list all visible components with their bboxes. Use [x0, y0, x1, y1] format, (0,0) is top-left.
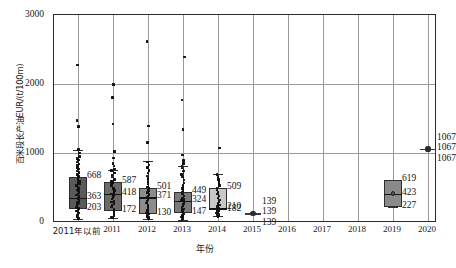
- scatter-point: [78, 155, 80, 157]
- x-tick-2013: 2013: [173, 224, 191, 234]
- gridline-x-2016: [288, 15, 289, 221]
- scatter-point: [77, 125, 79, 127]
- single-point-marker: [250, 211, 255, 216]
- stat-label: 147: [192, 207, 206, 217]
- y-axis-tick-labels: 3000 2000 1000 0: [0, 0, 52, 222]
- y-tick-3000: 3000: [0, 9, 44, 19]
- scatter-point: [113, 150, 115, 152]
- stat-label: 1067: [437, 133, 456, 143]
- scatter-point: [113, 165, 115, 167]
- scatter-point: [76, 64, 78, 66]
- stat-label: 371: [157, 191, 171, 201]
- x-tick-pre2011: 2011年以前: [53, 224, 102, 236]
- x-tick-2012: 2012: [138, 224, 156, 234]
- scatter-point: [78, 152, 80, 154]
- scatter-point: [112, 157, 114, 159]
- stat-label: 139: [262, 218, 276, 228]
- x-tick-2014: 2014: [208, 224, 226, 234]
- scatter-point: [113, 168, 115, 170]
- scatter-point: [217, 215, 219, 217]
- gridline-x-2017: [323, 15, 324, 221]
- stat-label: 182: [227, 204, 241, 214]
- scatter-point: [182, 128, 184, 130]
- whisker-cap-lower: [178, 220, 188, 221]
- scatter-point: [182, 170, 184, 172]
- scatter-point: [113, 202, 115, 204]
- scatter-point: [77, 148, 79, 150]
- stat-label: 172: [122, 205, 136, 215]
- scatter-point: [218, 184, 220, 186]
- scatter-point: [147, 172, 149, 174]
- x-tick-2016: 2016: [278, 224, 296, 234]
- whisker-cap-lower: [388, 207, 398, 208]
- stat-label: 363: [87, 192, 101, 202]
- x-tick-2011: 2011: [103, 224, 121, 234]
- gridline-x-2020: [428, 15, 429, 221]
- stat-label: 1067: [437, 143, 456, 153]
- gridline-y-1000: [54, 153, 435, 154]
- scatter-point: [146, 141, 148, 143]
- x-tick-2019: 2019: [383, 224, 401, 234]
- single-point-marker: [425, 146, 430, 151]
- scatter-point: [148, 213, 150, 215]
- stat-label: 139: [262, 197, 276, 207]
- scatter-point: [181, 218, 183, 220]
- scatter-point: [111, 217, 113, 219]
- scatter-point: [181, 154, 183, 156]
- scatter-point: [113, 172, 115, 174]
- stat-label: 668: [87, 171, 101, 181]
- stat-label: 130: [157, 208, 171, 218]
- scatter-point: [112, 83, 114, 85]
- gridline-x-2015: [253, 15, 254, 221]
- stat-label: 227: [402, 201, 416, 211]
- scatter-point: [183, 179, 185, 181]
- plot-area: [53, 14, 436, 222]
- stat-label: 324: [192, 195, 206, 205]
- x-axis-title: 年份: [196, 242, 214, 255]
- x-tick-2015: 2015: [243, 224, 261, 234]
- scatter-point: [147, 125, 149, 127]
- y-tick-2000: 2000: [0, 78, 44, 88]
- scatter-point: [76, 119, 78, 121]
- stat-label: 203: [87, 203, 101, 213]
- stat-label: 587: [122, 176, 136, 186]
- scatter-point: [146, 161, 148, 163]
- stat-label: 418: [122, 188, 136, 198]
- x-tick-2020: 2020: [418, 224, 436, 234]
- stat-label: 619: [402, 174, 416, 184]
- y-tick-0: 0: [0, 216, 44, 226]
- mean-marker: [391, 191, 395, 195]
- scatter-point: [146, 40, 148, 42]
- stat-label: 139: [262, 207, 276, 217]
- x-tick-2018: 2018: [348, 224, 366, 234]
- gridline-x-2018: [358, 15, 359, 221]
- stat-label: 509: [227, 182, 241, 192]
- x-tick-2017: 2017: [313, 224, 331, 234]
- stat-label: 1067: [437, 154, 456, 164]
- scatter-point: [218, 147, 220, 149]
- y-tick-1000: 1000: [0, 147, 44, 157]
- scatter-point: [111, 96, 113, 98]
- stat-label: 423: [402, 188, 416, 198]
